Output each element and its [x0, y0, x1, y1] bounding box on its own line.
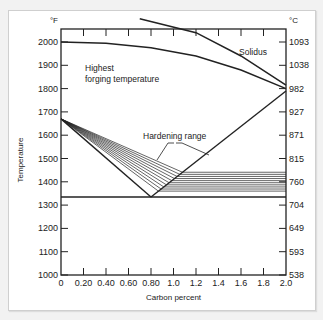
- y-tick-label-right: 649: [289, 223, 304, 233]
- x-tick-label: 1.4: [212, 278, 225, 288]
- y-tick-label-left: 1500: [38, 154, 58, 164]
- forging-label-2: forging temperature: [85, 74, 159, 84]
- x-tick-label: 1.2: [190, 278, 203, 288]
- hardening-fan-line: [61, 119, 169, 183]
- y-tick-label-left: 1900: [38, 60, 58, 70]
- acm-line: [151, 91, 286, 197]
- hardening-fan-line: [61, 119, 174, 179]
- y-tick-label-left: 1800: [38, 84, 58, 94]
- hardening-fan-line: [61, 119, 161, 189]
- a3-line: [61, 119, 151, 197]
- hardening-fan-line: [61, 119, 180, 174]
- y-tick-label-left: 1200: [38, 223, 58, 233]
- phase-diagram-chart: 1000110012001300140015001600170018001900…: [0, 0, 323, 320]
- x-tick-label: 0.60: [120, 278, 138, 288]
- y-tick-label-right: 871: [289, 130, 304, 140]
- y-tick-label-right: 815: [289, 154, 304, 164]
- hardening-label: Hardening range: [143, 131, 207, 141]
- x-tick-label: 0.80: [142, 278, 160, 288]
- y-tick-label-left: 1100: [39, 247, 58, 257]
- y-tick-label-left: 1000: [38, 270, 58, 280]
- solidus-label: Solidus: [239, 47, 267, 57]
- y-tick-label-right: 760: [289, 177, 304, 187]
- x-tick-label: 0.40: [97, 278, 115, 288]
- hardening-arrow-2: [176, 143, 209, 155]
- y-tick-label-left: 1400: [38, 177, 58, 187]
- y-tick-label-right: 593: [289, 247, 304, 257]
- y-tick-label-left: 2000: [38, 37, 58, 47]
- hardening-arrow-1: [157, 143, 174, 160]
- y-unit-left: °F: [50, 16, 58, 25]
- x-axis-label: Carbon percent: [146, 293, 202, 302]
- hardening-fan-line: [61, 119, 177, 177]
- x-tick-label: 1.6: [235, 278, 248, 288]
- y-tick-label-left: 1700: [38, 107, 58, 117]
- y-tick-label-right: 704: [289, 200, 304, 210]
- y-tick-label-right: 1038: [289, 60, 309, 70]
- y-tick-label-left: 1600: [38, 130, 58, 140]
- x-tick-label: 1.8: [257, 278, 270, 288]
- hardening-fan-line: [61, 119, 166, 185]
- forging-label-1: Highest: [85, 63, 114, 73]
- y-axis-label: Temperature: [16, 137, 25, 182]
- x-tick-label: 0.20: [75, 278, 93, 288]
- x-tick-label: 1.0: [167, 278, 180, 288]
- y-tick-label-left: 1300: [38, 200, 58, 210]
- y-tick-label-right: 982: [289, 84, 304, 94]
- x-tick-label: 2.0: [280, 278, 293, 288]
- x-tick-label: 0: [58, 278, 63, 288]
- y-unit-right: °C: [289, 16, 298, 25]
- y-tick-label-right: 927: [289, 107, 304, 117]
- hardening-fan-line: [61, 119, 172, 181]
- hardening-fan-line: [61, 119, 164, 187]
- y-tick-label-right: 1093: [289, 37, 309, 47]
- plot-area: 1000110012001300140015001600170018001900…: [16, 16, 309, 302]
